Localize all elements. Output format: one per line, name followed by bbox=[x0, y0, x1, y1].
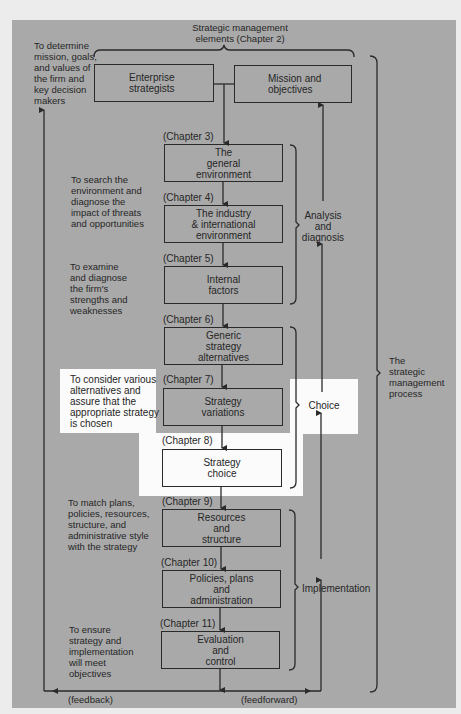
connector-lines bbox=[0, 0, 461, 714]
